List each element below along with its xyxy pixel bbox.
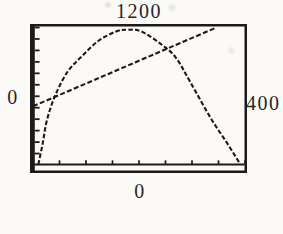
- scanned-figure-page: 1200 0 400 0: [0, 0, 283, 234]
- label-xmax: 400: [246, 93, 283, 113]
- plotted-curves: [33, 28, 240, 165]
- label-ymin: 0: [110, 181, 170, 201]
- line-curve: [33, 28, 216, 107]
- label-ymax: 1200: [104, 1, 174, 21]
- y-axis-ticks: [35, 28, 40, 154]
- plot-frame: [31, 25, 246, 172]
- parabola-curve: [38, 30, 239, 165]
- label-xmin: 0: [2, 87, 24, 107]
